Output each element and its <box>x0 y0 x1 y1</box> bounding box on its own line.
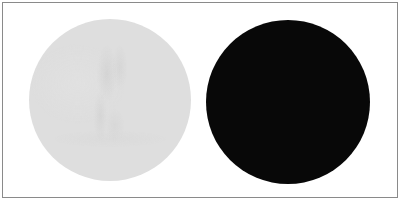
light-disc <box>29 19 191 181</box>
specimen-plate-frame <box>2 2 398 198</box>
image-canvas <box>0 0 406 206</box>
white-field-background <box>3 3 397 197</box>
dark-disc <box>206 20 370 184</box>
